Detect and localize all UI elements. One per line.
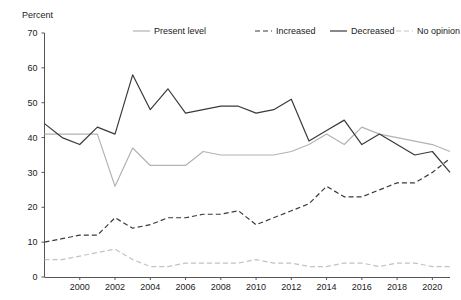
y-tick-label: 40 [27, 133, 37, 143]
chart-series-group [45, 75, 451, 267]
legend-label-2: Decreased [351, 26, 395, 36]
y-tick-label: 50 [27, 98, 37, 108]
x-tick-label: 2010 [246, 282, 266, 292]
series-line-present_level [45, 127, 451, 186]
x-tick-label: 2016 [352, 282, 372, 292]
y-tick-label: 20 [27, 202, 37, 212]
x-tick-label: 2014 [317, 282, 337, 292]
legend-label-1: Increased [276, 26, 316, 36]
x-tick-label: 2000 [70, 282, 90, 292]
x-tick-label: 2018 [387, 282, 407, 292]
y-tick-label: 60 [27, 63, 37, 73]
x-tick-label: 2002 [105, 282, 125, 292]
legend-label-3: No opinion [417, 26, 460, 36]
y-tick-label: 70 [27, 28, 37, 38]
line-chart: Percent Present levelIncreasedDecreasedN… [0, 0, 461, 300]
y-tick-group: 010203040506070 [27, 28, 44, 282]
x-tick-label: 2004 [140, 282, 160, 292]
series-line-no_opinion [45, 249, 451, 266]
x-tick-group: 2000200220042006200820102012201420162018… [70, 277, 443, 292]
y-tick-label: 10 [27, 237, 37, 247]
y-tick-label: 30 [27, 168, 37, 178]
y-tick-label: 0 [32, 272, 37, 282]
x-tick-label: 2012 [281, 282, 301, 292]
x-tick-label: 2008 [211, 282, 231, 292]
series-line-increased [45, 158, 451, 242]
y-axis-title: Percent [22, 10, 54, 20]
x-tick-label: 2006 [176, 282, 196, 292]
x-tick-label: 2020 [422, 282, 442, 292]
chart-canvas: Percent Present levelIncreasedDecreasedN… [0, 0, 461, 300]
legend-label-0: Present level [154, 26, 206, 36]
chart-legend: Present levelIncreasedDecreasedNo opinio… [133, 26, 460, 36]
